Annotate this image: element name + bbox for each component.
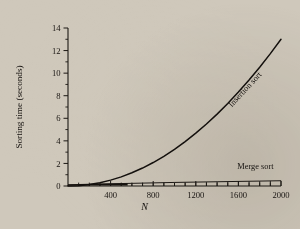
- merge-sort-label: Merge sort: [237, 162, 274, 171]
- x-axis-tick-label: 1200: [187, 190, 204, 200]
- y-axis-tick-label: 10: [52, 68, 61, 78]
- x-axis-title: N: [140, 201, 149, 212]
- y-axis-tick-label: 0: [56, 181, 60, 191]
- y-axis-tick-label: 12: [52, 46, 61, 56]
- y-axis-tick-label: 2: [56, 159, 60, 169]
- figure-canvas: 02468101214x-axis-minor-tickx-axis-minor…: [0, 0, 300, 229]
- y-axis-tick-label: 4: [56, 136, 61, 146]
- x-axis-tick-label: 400: [104, 190, 117, 200]
- y-axis-tick-label: 14: [52, 23, 61, 33]
- y-axis-title: Sorting time (seconds): [14, 65, 24, 148]
- x-axis-tick-label: 800: [147, 190, 160, 200]
- y-axis-tick-label: 8: [56, 91, 60, 101]
- insertion-sort-label: Insertion sort: [227, 70, 264, 109]
- x-axis-tick-label: 1600: [230, 190, 247, 200]
- x-axis-tick-label: 2000: [272, 190, 289, 200]
- y-axis-tick-label: 6: [56, 113, 61, 123]
- sorting-time-chart: 02468101214x-axis-minor-tickx-axis-minor…: [0, 0, 300, 229]
